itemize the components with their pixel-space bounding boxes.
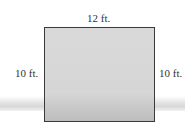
rectangle-shape [44,27,155,122]
left-dimension-label: 10 ft. [15,67,38,79]
right-dimension-label: 10 ft. [159,67,182,79]
top-dimension-label: 12 ft. [87,12,110,24]
